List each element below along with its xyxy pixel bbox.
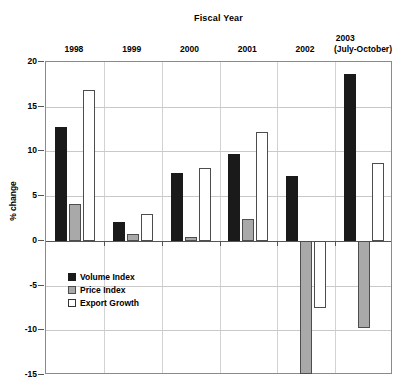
y-tick-mark [38, 329, 44, 330]
bar-group [220, 62, 278, 373]
category-label-line: 2003 (July- [334, 33, 357, 55]
bar-export [256, 132, 268, 241]
category-label-line: 2000 [161, 44, 219, 55]
bar-group [46, 62, 104, 373]
legend-label: Price Index [80, 285, 125, 295]
bar-volume [113, 222, 125, 241]
y-tick-label: 0 [32, 235, 37, 245]
legend-swatch-volume [68, 273, 76, 281]
bar-group [335, 62, 393, 373]
category-label-line: 1999 [103, 44, 161, 55]
y-axis: % change 20151050-5-10-15 [0, 0, 45, 392]
y-tick-label: 20 [28, 56, 37, 66]
cropped-title-stub [0, 0, 408, 6]
legend-swatch-export [68, 299, 76, 307]
category-label-2000: 2000 [161, 29, 219, 55]
category-label-2002: 2002 [276, 29, 334, 55]
y-axis-title: % change [8, 171, 18, 231]
y-tick-mark [38, 106, 44, 107]
chart-legend: Volume IndexPrice IndexExport Growth [68, 272, 139, 311]
category-label-1998: 1998 [45, 29, 103, 55]
y-tick-label: 5 [32, 190, 37, 200]
y-tick-mark [38, 150, 44, 151]
bar-group [162, 62, 220, 373]
y-tick-label: -10 [25, 324, 37, 334]
y-tick-label: 15 [28, 101, 37, 111]
chart-title-fiscal-year: Fiscal Year [45, 13, 392, 23]
category-label-2003-july-october-: 2003 (July-October) [334, 29, 392, 55]
category-label-line: 1998 [45, 44, 103, 55]
category-label-2001: 2001 [218, 29, 276, 55]
category-label-1999: 1999 [103, 29, 161, 55]
bar-volume [55, 127, 67, 241]
bar-group [277, 62, 335, 373]
bar-price [69, 204, 81, 241]
bar-export [83, 90, 95, 241]
bar-export [199, 168, 211, 240]
bar-group [104, 62, 162, 373]
y-tick-mark [38, 195, 44, 196]
bar-price [185, 237, 197, 241]
y-tick-mark [38, 374, 44, 375]
y-tick-label: -15 [25, 369, 37, 379]
plot-area [45, 61, 392, 374]
chart-figure: Fiscal Year 199819992000200120022003 (Ju… [0, 0, 408, 392]
category-label-line: 2001 [218, 44, 276, 55]
bar-volume [286, 176, 298, 240]
bar-volume [344, 74, 356, 241]
category-header-row: 199819992000200120022003 (July-October) [45, 29, 392, 55]
y-tick-mark [38, 240, 44, 241]
y-tick-mark [38, 285, 44, 286]
legend-label: Export Growth [80, 298, 139, 308]
bar-price [358, 241, 370, 328]
legend-item: Volume Index [68, 272, 139, 282]
bar-export [314, 241, 326, 308]
bar-volume [171, 173, 183, 241]
y-tick-label: -5 [29, 280, 37, 290]
bar-export [141, 214, 153, 241]
bar-price [300, 241, 312, 374]
bar-volume [228, 154, 240, 241]
category-label-line: October) [357, 44, 392, 55]
y-tick-mark [38, 61, 44, 62]
y-tick-label: 10 [28, 145, 37, 155]
legend-swatch-price [68, 286, 76, 294]
bar-price [242, 219, 254, 240]
category-label-line: 2002 [276, 44, 334, 55]
bar-export [372, 163, 384, 241]
bar-price [127, 234, 139, 241]
legend-item: Price Index [68, 285, 139, 295]
legend-label: Volume Index [80, 272, 135, 282]
legend-item: Export Growth [68, 298, 139, 308]
